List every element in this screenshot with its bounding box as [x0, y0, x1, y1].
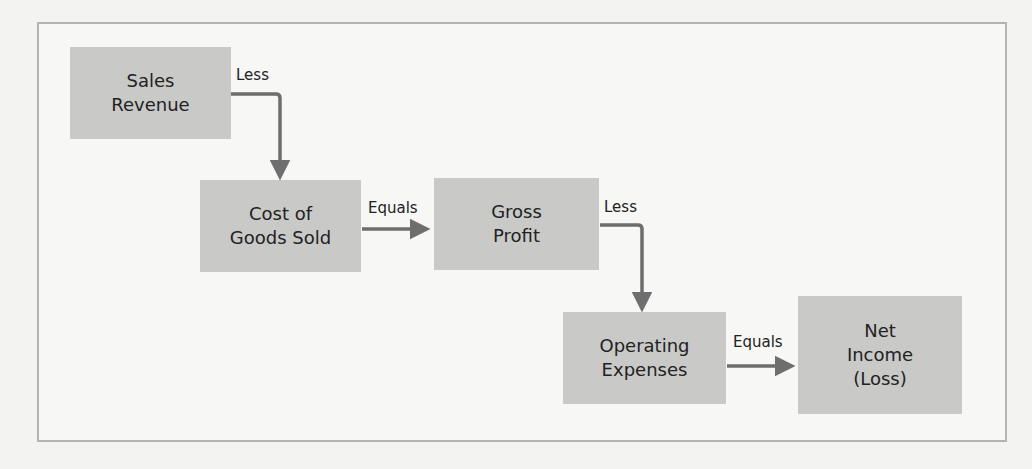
connector-label-equals: Equals — [733, 333, 783, 351]
connector-label-equals: Equals — [368, 199, 418, 217]
arrow-less-2 — [600, 225, 642, 302]
arrow-less-1 — [231, 94, 280, 170]
connector-arrows — [0, 0, 1032, 469]
connector-label-less: Less — [604, 198, 637, 216]
connector-label-less: Less — [236, 66, 269, 84]
